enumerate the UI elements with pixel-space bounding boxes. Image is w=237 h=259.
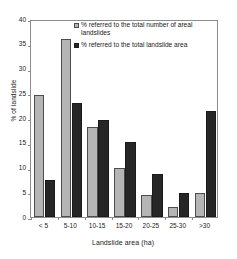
x-axis-tick-label: 25-30 <box>164 222 191 230</box>
bar <box>34 95 45 217</box>
x-axis-tick-mark <box>138 217 139 220</box>
bar <box>168 207 179 217</box>
y-axis-tick-mark <box>28 95 31 96</box>
bar <box>152 174 163 217</box>
legend-label: % referred to the total number of areal … <box>81 21 210 37</box>
y-axis-tick-mark <box>28 71 31 72</box>
bar <box>206 111 217 217</box>
y-axis-tick-mark <box>28 21 31 22</box>
legend-item: % referred to the total landslide area <box>74 41 210 49</box>
bar <box>45 180 56 217</box>
legend-label: % referred to the total landslide area <box>81 41 187 49</box>
y-axis-tick-label: 40 <box>12 17 26 24</box>
y-axis-tick-mark <box>28 194 31 195</box>
bar <box>125 142 136 217</box>
bar <box>114 168 125 218</box>
y-axis-tick-label: 10 <box>12 165 26 172</box>
y-axis-title: % of landslide <box>10 58 17 144</box>
bar <box>61 39 72 217</box>
y-axis-tick-label: 35 <box>12 41 26 48</box>
x-axis-tick-label: 20-25 <box>137 222 164 230</box>
bar <box>87 127 98 217</box>
y-axis-tick-label: 5 <box>12 190 26 197</box>
legend: % referred to the total number of areal … <box>74 21 210 53</box>
y-axis-tick-mark <box>28 170 31 171</box>
bar <box>72 103 83 217</box>
x-axis-tick-mark <box>85 217 86 220</box>
bar <box>98 120 109 217</box>
legend-swatch-icon <box>74 43 79 48</box>
bar-chart: 0510152025303540 % of landslide < 55-101… <box>0 0 237 259</box>
bar <box>179 193 190 217</box>
x-axis-tick-labels: < 55-1010-1515-2020-2525-30>30 <box>30 222 218 236</box>
x-axis-tick-label: >30 <box>191 222 218 230</box>
bar <box>195 193 206 217</box>
x-axis-tick-mark <box>192 217 193 220</box>
bar-group <box>34 21 56 217</box>
y-axis-tick-mark <box>28 120 31 121</box>
x-axis-tick-label: 5-10 <box>57 222 84 230</box>
x-axis-tick-label: < 5 <box>30 222 57 230</box>
y-axis-tick-mark <box>28 145 31 146</box>
legend-swatch-icon <box>74 23 79 28</box>
x-axis-title: Landslide area (ha) <box>28 239 218 246</box>
legend-item: % referred to the total number of areal … <box>74 21 210 37</box>
x-axis-tick-mark <box>112 217 113 220</box>
y-axis-tick-mark <box>28 46 31 47</box>
x-axis-tick-mark <box>31 217 32 220</box>
x-axis-tick-mark <box>165 217 166 220</box>
y-axis-tick-label: 0 <box>12 215 26 222</box>
x-axis-tick-label: 10-15 <box>84 222 111 230</box>
x-axis-tick-label: 15-20 <box>111 222 138 230</box>
x-axis-tick-mark <box>58 217 59 220</box>
bar <box>141 195 152 217</box>
